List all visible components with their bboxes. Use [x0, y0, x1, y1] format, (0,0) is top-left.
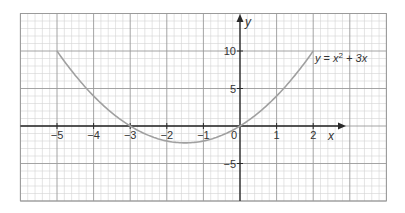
- x-tick-label: 2: [310, 129, 316, 141]
- y-tick-label: 5: [230, 83, 236, 95]
- plot-background: [0, 0, 405, 213]
- x-axis-label: x: [327, 129, 335, 143]
- parabola-graph: −5−4−3−2−1012 105−5 x y y = x2 + 3x: [0, 0, 405, 213]
- y-axis-label: y: [244, 15, 252, 29]
- y-tick-label: −5: [223, 158, 236, 170]
- x-tick-label: −4: [87, 129, 100, 141]
- x-tick-label: −5: [51, 129, 64, 141]
- x-tick-label: 0: [231, 129, 237, 141]
- x-tick-label: −1: [197, 129, 210, 141]
- equation-eq: =: [321, 52, 334, 64]
- x-tick-label: −3: [124, 129, 137, 141]
- x-tick-label: 1: [274, 129, 280, 141]
- x-tick-label: −2: [161, 129, 174, 141]
- y-tick-label: 10: [224, 45, 236, 57]
- equation-rest: + 3x: [343, 52, 368, 64]
